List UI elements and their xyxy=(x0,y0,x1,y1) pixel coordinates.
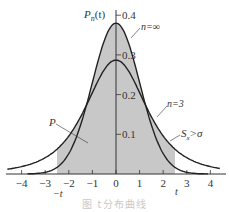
y-axis-label: Pn(t) xyxy=(83,8,105,23)
x-tick-label: 0 xyxy=(113,177,119,189)
label-sx-gt-sigma: Sx>σ xyxy=(181,127,203,142)
figure-caption: 图 t分布曲线 xyxy=(0,196,229,211)
x-tick-label: 1 xyxy=(137,177,143,189)
x-tick-label: −1 xyxy=(87,177,99,189)
y-tick-label: 0.2 xyxy=(122,89,136,101)
x-tick-label: −3 xyxy=(39,177,51,189)
y-tick-label: 0.4 xyxy=(122,9,136,21)
label-p: P xyxy=(48,116,56,128)
label-n3: n=3 xyxy=(167,98,184,109)
leader-sx xyxy=(170,135,180,141)
x-tick-label: 4 xyxy=(208,177,214,189)
x-tick-label: −2 xyxy=(63,177,75,189)
t-distribution-chart: −4−3−2−101234 0.10.20.30.4 Pn(t) n=∞ n=3… xyxy=(0,0,229,212)
y-tick-label: 0.1 xyxy=(122,128,136,140)
x-tick-label: −4 xyxy=(16,177,28,189)
leader-n3 xyxy=(157,106,167,117)
x-tick-label: 3 xyxy=(184,177,190,189)
label-n-infinity: n=∞ xyxy=(141,21,160,32)
leader-n-inf xyxy=(131,28,140,38)
x-tick-label: 2 xyxy=(160,177,166,189)
